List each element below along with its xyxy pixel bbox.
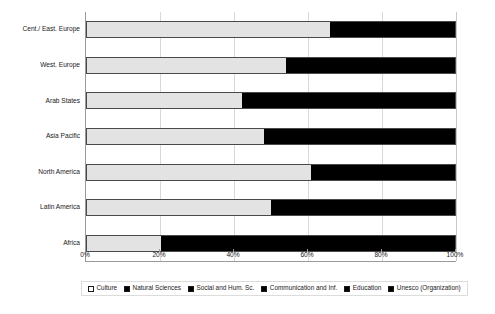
bar-segment[interactable]: [352, 58, 385, 73]
stacked-bar[interactable]: [86, 92, 456, 109]
legend-label: Culture: [97, 285, 118, 291]
bar-segment[interactable]: [311, 165, 340, 180]
legend-item[interactable]: Communication and Inf.: [261, 285, 337, 291]
bar-row: North America: [86, 154, 456, 190]
bar-segment[interactable]: [242, 93, 286, 108]
plot-area: Cent./ East. EuropeWest. EuropeArab Stat…: [85, 12, 456, 262]
legend-item[interactable]: Social and Hum. Sc.: [188, 285, 254, 291]
category-label: Arab States: [46, 98, 86, 105]
legend-item[interactable]: Natural Sciences: [124, 285, 181, 291]
chart-figure: Cent./ East. EuropeWest. EuropeArab Stat…: [0, 0, 495, 314]
bar-segment[interactable]: [422, 58, 455, 73]
x-axis-tick-label: 100%: [447, 252, 464, 259]
bar-segment[interactable]: [300, 129, 337, 144]
category-label: West. Europe: [40, 62, 86, 69]
bar-segment[interactable]: [370, 165, 399, 180]
bar-segment[interactable]: [326, 93, 370, 108]
bar-segment[interactable]: [400, 165, 429, 180]
bar-segment[interactable]: [337, 236, 396, 251]
bar-row: Arab States: [86, 83, 456, 119]
legend-swatch: [344, 286, 350, 292]
bar-segment[interactable]: [378, 22, 404, 37]
stacked-bar[interactable]: [86, 21, 456, 38]
bar-segment[interactable]: [161, 236, 220, 251]
gridline-100pct: [456, 12, 457, 261]
chart-legend: CultureNatural SciencesSocial and Hum. S…: [81, 281, 468, 296]
bar-segment[interactable]: [87, 200, 271, 215]
bar-segment[interactable]: [429, 165, 455, 180]
stacked-bar[interactable]: [86, 235, 456, 252]
legend-item[interactable]: Culture: [88, 285, 117, 291]
bar-segment[interactable]: [87, 58, 286, 73]
bar-row: West. Europe: [86, 48, 456, 84]
x-axis-tick-label: 60%: [300, 252, 313, 259]
bar-row: Latin America: [86, 190, 456, 226]
bar-segment[interactable]: [341, 165, 370, 180]
bar-segment[interactable]: [286, 93, 326, 108]
bar-segment[interactable]: [87, 93, 242, 108]
bar-segment[interactable]: [396, 236, 455, 251]
bar-row: Cent./ East. Europe: [86, 12, 456, 48]
legend-swatch: [88, 286, 94, 292]
category-label: Cent./ East. Europe: [22, 26, 86, 33]
bar-segment[interactable]: [271, 200, 308, 215]
stacked-bar[interactable]: [86, 57, 456, 74]
category-label: Latin America: [40, 204, 86, 211]
bar-segment[interactable]: [286, 58, 319, 73]
legend-swatch: [261, 286, 267, 292]
bar-segment[interactable]: [418, 129, 455, 144]
legend-label: Social and Hum. Sc.: [196, 285, 254, 291]
bar-rows: Cent./ East. EuropeWest. EuropeArab Stat…: [86, 12, 456, 261]
bar-segment[interactable]: [87, 22, 330, 37]
bar-row: Asia Pacific: [86, 119, 456, 155]
legend-item[interactable]: Education: [344, 285, 381, 291]
bar-segment[interactable]: [429, 22, 455, 37]
legend-item[interactable]: Unesco (Organization): [388, 285, 460, 291]
bar-segment[interactable]: [308, 200, 345, 215]
stacked-bar[interactable]: [86, 164, 456, 181]
bar-segment[interactable]: [330, 22, 356, 37]
bar-segment[interactable]: [219, 236, 278, 251]
category-label: North America: [38, 169, 86, 176]
bar-segment[interactable]: [403, 22, 429, 37]
bar-segment[interactable]: [378, 129, 418, 144]
bar-segment[interactable]: [418, 200, 455, 215]
bar-segment[interactable]: [385, 58, 422, 73]
category-label: Africa: [63, 240, 86, 247]
bar-segment[interactable]: [381, 200, 418, 215]
bar-segment[interactable]: [319, 58, 352, 73]
legend-swatch: [388, 286, 394, 292]
bar-row: Africa: [86, 225, 456, 261]
bar-segment[interactable]: [87, 165, 311, 180]
bar-segment[interactable]: [345, 200, 382, 215]
bar-segment[interactable]: [370, 93, 414, 108]
bar-segment[interactable]: [264, 129, 301, 144]
x-axis-tick-label: 20%: [152, 252, 165, 259]
bar-segment[interactable]: [414, 93, 454, 108]
category-label: Asia Pacific: [46, 133, 86, 140]
legend-label: Unesco (Organization): [397, 285, 461, 291]
x-axis-tick-label: 80%: [374, 252, 387, 259]
legend-label: Natural Sciences: [133, 285, 181, 291]
bar-segment[interactable]: [87, 236, 161, 251]
bar-segment[interactable]: [87, 129, 264, 144]
stacked-bar[interactable]: [86, 199, 456, 216]
legend-label: Education: [353, 285, 381, 291]
legend-swatch: [124, 286, 130, 292]
x-axis-tick-label: 40%: [226, 252, 239, 259]
bar-segment[interactable]: [337, 129, 377, 144]
bar-segment[interactable]: [356, 22, 378, 37]
x-axis-tick-label: 0%: [80, 252, 90, 259]
legend-swatch: [188, 286, 194, 292]
stacked-bar[interactable]: [86, 128, 456, 145]
legend-label: Communication and Inf.: [270, 285, 338, 291]
